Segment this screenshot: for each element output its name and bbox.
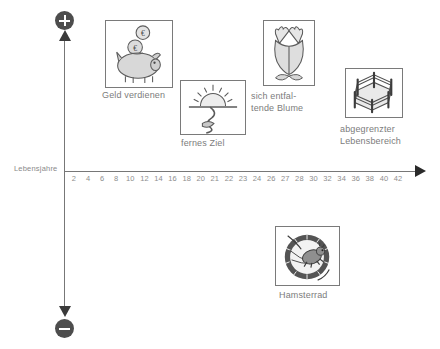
x-axis-tick: 27 <box>281 174 290 183</box>
x-axis-tick: 40 <box>380 174 389 183</box>
svg-text:€: € <box>141 29 145 38</box>
card-fernes-ziel[interactable] <box>180 80 246 135</box>
x-axis-tick: 24 <box>253 174 262 183</box>
x-axis-tick: 38 <box>366 174 375 183</box>
axis-arrow-right-icon <box>415 165 426 177</box>
life-timeline-diagram: Lebensjahre 2468101214161820212223242627… <box>0 0 440 349</box>
card-abgegrenzter-lebensbereich[interactable] <box>345 68 403 118</box>
x-axis-tick: 18 <box>182 174 191 183</box>
vertical-axis-line <box>64 36 65 308</box>
x-axis-title: Lebensjahre <box>14 164 57 173</box>
x-axis-tick: 21 <box>211 174 220 183</box>
x-axis-tick: 36 <box>351 174 360 183</box>
x-axis-tick: 26 <box>267 174 276 183</box>
x-axis-tick: 23 <box>239 174 248 183</box>
card-caption-fernes-ziel: fernes Ziel <box>181 138 261 150</box>
x-axis-tick: 20 <box>197 174 206 183</box>
card-caption-abgegrenzter-lebensbereich: abgegrenzter Lebensbereich <box>340 124 440 147</box>
axis-arrow-down-icon <box>59 306 71 317</box>
x-axis-ticks: 2468101214161820212223242627283032343638… <box>64 174 416 188</box>
svg-text:€: € <box>133 44 137 53</box>
x-axis-tick: 16 <box>168 174 177 183</box>
card-hamsterrad[interactable] <box>275 226 340 286</box>
horizontal-axis-line <box>64 171 419 172</box>
x-axis-tick: 32 <box>323 174 332 183</box>
x-axis-tick: 10 <box>126 174 135 183</box>
card-geld-verdienen[interactable]: € € <box>105 20 173 88</box>
x-axis-tick: 4 <box>86 174 90 183</box>
sunrise-path-icon <box>181 81 245 134</box>
x-axis-tick: 12 <box>140 174 149 183</box>
x-axis-tick: 28 <box>295 174 304 183</box>
x-axis-tick: 8 <box>114 174 118 183</box>
x-axis-tick: 30 <box>309 174 318 183</box>
x-axis-tick: 6 <box>100 174 104 183</box>
x-axis-tick: 22 <box>225 174 234 183</box>
card-caption-hamsterrad: Hamsterrad <box>279 290 369 302</box>
x-axis-tick: 34 <box>337 174 346 183</box>
hamster-wheel-icon <box>276 227 339 285</box>
plus-badge-icon <box>55 11 74 30</box>
fenced-area-icon <box>346 69 402 117</box>
card-sich-entfaltende-blume[interactable] <box>263 20 315 86</box>
x-axis-tick: 2 <box>72 174 76 183</box>
card-caption-sich-entfaltende-blume: sich entfal- tende Blume <box>251 91 331 114</box>
axis-arrow-up-icon <box>59 30 71 41</box>
tulip-flower-icon <box>264 21 314 85</box>
piggy-bank-icon: € € <box>106 21 172 87</box>
x-axis-tick: 42 <box>394 174 403 183</box>
x-axis-tick: 14 <box>154 174 163 183</box>
minus-badge-icon <box>55 319 74 338</box>
